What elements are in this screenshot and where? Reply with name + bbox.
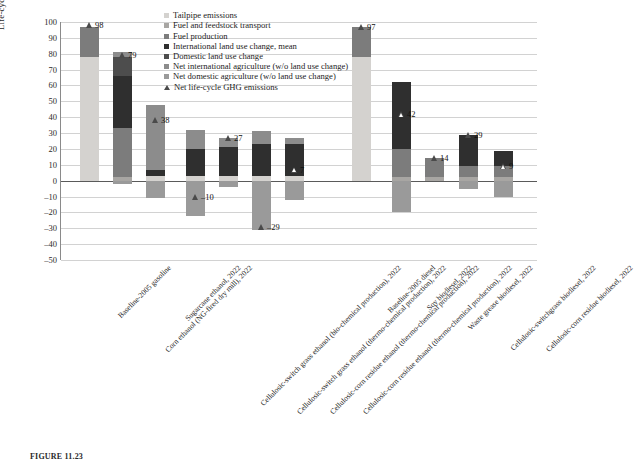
net-value-marker: –29	[258, 223, 280, 232]
legend-swatch-icon	[164, 64, 169, 69]
bar-segment	[186, 130, 205, 149]
bar-segment	[252, 144, 271, 176]
bar-segment	[459, 181, 478, 189]
net-value-marker: 29	[465, 131, 483, 140]
net-value-label: 29	[474, 130, 483, 140]
bar-segment	[113, 76, 132, 128]
legend-label: Net international agriculture (w/o land …	[173, 62, 348, 71]
legend-swatch-icon	[164, 23, 169, 28]
legend-item[interactable]: Tailpipe emissions	[164, 11, 348, 21]
gridline	[61, 260, 537, 261]
net-value-label: –10	[201, 192, 214, 202]
net-value-marker: –10	[192, 193, 214, 202]
legend-label: Tailpipe emissions	[173, 11, 237, 20]
y-tick-label: 70	[1, 66, 57, 75]
bar-segment	[80, 27, 99, 57]
bar-8[interactable]	[352, 22, 371, 260]
net-value-label: 97	[367, 22, 376, 32]
bar-1[interactable]	[80, 22, 99, 260]
y-tick-label: 10	[1, 161, 57, 170]
bar-9[interactable]	[392, 22, 411, 260]
net-value-label: –29	[267, 222, 280, 232]
y-tick-label: –30	[1, 224, 57, 233]
bar-10[interactable]	[425, 22, 444, 260]
y-tick-label: –40	[1, 240, 57, 249]
bar-segment	[352, 57, 371, 181]
net-marker-icon	[431, 155, 438, 161]
y-tick-label: 30	[1, 129, 57, 138]
legend-swatch-icon	[164, 13, 169, 18]
x-category-label: Baseline-2005 gasoline	[116, 264, 172, 320]
bar-segment	[425, 177, 444, 180]
legend-item[interactable]: Fuel and feedstock transport	[164, 21, 348, 31]
net-marker-icon	[500, 163, 507, 169]
net-value-label: 9	[509, 161, 513, 171]
net-value-label: 98	[95, 20, 104, 30]
net-value-label: 7	[300, 165, 304, 175]
legend-item[interactable]: Net domestic agriculture (w/o land use c…	[164, 72, 348, 82]
legend-swatch-icon	[164, 74, 169, 79]
net-marker-icon	[164, 84, 171, 91]
legend-label: International land use change, mean	[173, 42, 297, 51]
y-tick-label: 100	[1, 18, 57, 27]
legend-label: Fuel production	[173, 32, 228, 41]
bar-segment	[186, 149, 205, 176]
net-value-label: 42	[407, 109, 416, 119]
bar-segment	[113, 128, 132, 177]
bar-segment	[113, 181, 132, 184]
legend-item[interactable]: Fuel production	[164, 31, 348, 41]
legend-item[interactable]: Net international agriculture (w/o land …	[164, 62, 348, 72]
net-value-label: 14	[440, 153, 449, 163]
legend-item[interactable]: International land use change, mean	[164, 42, 348, 52]
legend-item[interactable]: Net life-cycle GHG emissions	[164, 82, 348, 92]
net-value-marker: 79	[119, 51, 137, 60]
bar-segment	[459, 166, 478, 177]
legend-label: Domestic land use change	[173, 52, 263, 61]
y-tick-label: 90	[1, 34, 57, 43]
bar-11[interactable]	[459, 22, 478, 260]
x-axis-category-labels: Baseline-2005 gasolineCorn ethanol (NG-f…	[0, 262, 545, 442]
net-value-marker: 7	[291, 166, 304, 175]
net-marker-icon	[192, 194, 199, 200]
x-category-label: Sugarcane ethanol, 2022	[183, 264, 242, 323]
bar-12[interactable]	[494, 22, 513, 260]
net-marker-icon	[398, 111, 405, 117]
y-tick-label: 0	[1, 177, 57, 186]
bar-segment	[285, 138, 304, 144]
y-tick-label: 50	[1, 97, 57, 106]
legend-label: Net life-cycle GHG emissions	[174, 83, 278, 92]
net-marker-icon	[291, 167, 298, 173]
x-category-label: Cellulosic-corn residue ethanol (thermo-…	[328, 264, 480, 416]
net-value-label: 79	[128, 50, 137, 60]
bar-segment	[146, 181, 165, 198]
legend-swatch-icon	[164, 34, 169, 39]
y-tick-label: 20	[1, 145, 57, 154]
net-value-marker: 42	[398, 110, 416, 119]
bar-segment	[392, 149, 411, 178]
net-value-label: 38	[161, 115, 170, 125]
y-tick-label: 80	[1, 50, 57, 59]
net-marker-icon	[119, 52, 126, 58]
y-tick-label: –20	[1, 208, 57, 217]
net-value-marker: 9	[500, 162, 513, 171]
net-value-marker: 14	[431, 154, 449, 163]
bar-segment	[219, 181, 238, 187]
legend-label: Net domestic agriculture (w/o land use c…	[173, 72, 336, 81]
figure-caption: FIGURE 11.23	[30, 452, 83, 461]
y-tick-label: 60	[1, 81, 57, 90]
net-value-marker: 97	[358, 23, 376, 32]
net-marker-icon	[86, 22, 93, 28]
bar-segment	[80, 57, 99, 181]
net-marker-icon	[225, 135, 232, 141]
legend-item[interactable]: Domestic land use change	[164, 52, 348, 62]
bar-segment	[285, 181, 304, 200]
bar-3[interactable]	[146, 22, 165, 260]
net-marker-icon	[258, 224, 265, 230]
legend-swatch-icon	[164, 44, 169, 49]
legend-label: Fuel and feedstock transport	[173, 21, 271, 30]
bar-segment	[146, 170, 165, 176]
bar-segment	[392, 181, 411, 213]
net-marker-icon	[152, 117, 159, 123]
net-value-marker: 38	[152, 116, 170, 125]
bar-segment	[219, 147, 238, 176]
